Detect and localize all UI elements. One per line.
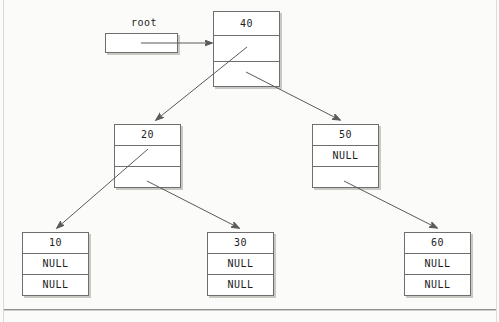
node-30-right-pointer: NULL — [208, 275, 273, 296]
edge-node-20-to-node-30 — [147, 181, 239, 228]
node-10-value: 10 — [23, 233, 88, 254]
node-40-left-pointer — [214, 36, 279, 62]
node-50-left-pointer: NULL — [313, 146, 378, 167]
edge-node-50-to-node-60 — [344, 181, 437, 228]
node-50-value: 50 — [313, 125, 378, 146]
node-10-right-pointer: NULL — [23, 275, 88, 296]
node-50[interactable]: 50 NULL — [312, 124, 379, 188]
node-10[interactable]: 10 NULL NULL — [22, 232, 89, 296]
node-30[interactable]: 30 NULL NULL — [207, 232, 274, 296]
node-30-left-pointer: NULL — [208, 254, 273, 275]
node-50-right-pointer — [313, 167, 378, 188]
node-60-left-pointer: NULL — [405, 254, 470, 275]
node-20-right-pointer — [115, 167, 180, 188]
node-10-left-pointer: NULL — [23, 254, 88, 275]
page-edge-right — [496, 0, 497, 322]
root-pointer-label: root — [131, 17, 157, 28]
node-40-value: 40 — [214, 12, 279, 36]
page-edge-left — [3, 0, 4, 322]
node-20-left-pointer — [115, 146, 180, 167]
node-60-value: 60 — [405, 233, 470, 254]
node-20-value: 20 — [115, 125, 180, 146]
node-30-value: 30 — [208, 233, 273, 254]
node-40-right-pointer — [214, 62, 279, 86]
node-40[interactable]: 40 — [213, 11, 280, 87]
node-60[interactable]: 60 NULL NULL — [404, 232, 471, 296]
diagram-canvas: root 40 20 50 NULL 10 NULL NULL 30 NULL … — [0, 0, 499, 322]
node-20[interactable]: 20 — [114, 124, 181, 188]
root-pointer-box[interactable] — [105, 33, 178, 53]
node-60-right-pointer: NULL — [405, 275, 470, 296]
page-bottom-rule — [4, 309, 496, 311]
